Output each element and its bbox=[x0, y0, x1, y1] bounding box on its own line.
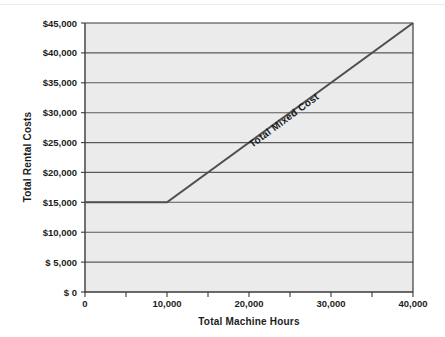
y-tick-label-15000: $15,000 bbox=[43, 197, 77, 208]
x-tick-label-10000: 10,000 bbox=[152, 298, 181, 309]
y-tick-label-25000: $25,000 bbox=[43, 137, 77, 148]
x-axis-title: Total Machine Hours bbox=[198, 316, 300, 327]
y-axis-title: Total Rental Costs bbox=[22, 111, 33, 202]
y-axis-tick-labels: $45,000 $40,000 $35,000 $30,000 $25,000 … bbox=[43, 18, 77, 298]
x-tick-label-20000: 20,000 bbox=[234, 298, 263, 309]
y-tick-label-5000: $ 5,000 bbox=[45, 257, 77, 268]
x-axis-ticks bbox=[85, 292, 413, 297]
x-tick-label-40000: 40,000 bbox=[398, 298, 427, 309]
y-tick-label-10000: $10,000 bbox=[43, 227, 77, 238]
chart-figure: $45,000 $40,000 $35,000 $30,000 $25,000 … bbox=[0, 0, 445, 337]
x-tick-label-0: 0 bbox=[82, 298, 87, 309]
y-tick-label-0: $ 0 bbox=[64, 287, 77, 298]
total-mixed-cost-line-chart: $45,000 $40,000 $35,000 $30,000 $25,000 … bbox=[0, 0, 445, 337]
x-tick-label-30000: 30,000 bbox=[316, 298, 345, 309]
y-tick-label-35000: $35,000 bbox=[43, 77, 77, 88]
y-tick-label-45000: $45,000 bbox=[43, 18, 77, 29]
y-tick-label-20000: $20,000 bbox=[43, 167, 77, 178]
plot-area-background bbox=[85, 23, 413, 292]
y-tick-label-30000: $30,000 bbox=[43, 107, 77, 118]
y-tick-label-40000: $40,000 bbox=[43, 47, 77, 58]
x-axis-tick-labels: 0 10,000 20,000 30,000 40,000 bbox=[82, 298, 427, 309]
